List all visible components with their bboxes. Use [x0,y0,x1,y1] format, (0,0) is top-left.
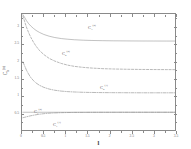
x-tick-minor-bottom [76,131,77,133]
y-tick-right [174,62,177,63]
y-tick-right [174,27,177,28]
y-tick-right [174,44,177,45]
y-tick-minor-right [175,53,177,54]
y-tick-minor-left [21,18,23,19]
annot-c1-2-sup: (2) [39,107,42,111]
x-axis-title: l [21,139,176,146]
y-tick-left [21,114,24,115]
annot-c3-2-sub: 3 [91,27,92,31]
x-tick-minor-top [32,15,33,17]
annot-c2-1: C2(1) [100,84,108,91]
y-tick-right [174,79,177,80]
x-tick-minor-top [99,15,100,17]
x-tick-top [132,14,133,17]
annot-c1-2-sub: 1 [37,111,38,115]
y-tick-label: 1.5 [15,77,20,81]
curve-3 [23,62,175,93]
annot-c2-2: C2(2) [62,50,70,57]
curve-4 [23,112,175,117]
annot-c1-1-sup: (1) [58,120,61,124]
figure-container: 00.511.522.533.5 0.511.522.53 l Ck(n) C3… [0,0,191,149]
x-tick-minor-bottom [99,131,100,133]
x-tick-minor-bottom [143,131,144,133]
x-tick-minor-top [54,15,55,17]
y-axis-title-base: C [2,71,8,75]
annot-c2-2-sub: 2 [65,53,66,57]
y-tick-minor-left [21,70,23,71]
curve-2 [23,16,175,70]
x-tick-top [87,14,88,17]
annot-c3-2: C3(2) [88,24,96,31]
y-tick-left [21,79,24,80]
x-tick-minor-top [165,15,166,17]
y-tick-minor-right [175,88,177,89]
y-tick-right [174,96,177,97]
curves-svg [22,14,175,130]
plot-area [21,13,176,131]
x-tick-minor-bottom [32,131,33,133]
y-tick-minor-right [175,122,177,123]
x-tick-minor-bottom [121,131,122,133]
y-tick-left [21,44,24,45]
y-axis-ticks-right [173,13,177,131]
y-tick-left [21,62,24,63]
y-tick-minor-right [175,18,177,19]
y-tick-label: 0.5 [15,112,20,116]
y-tick-minor-right [175,70,177,71]
annot-c3-2-sup: (2) [93,23,96,27]
y-tick-label: 1 [17,94,19,98]
x-tick-top [43,14,44,17]
y-tick-minor-left [21,105,23,106]
y-tick-left [21,96,24,97]
y-axis-title: Ck(n) [2,55,11,85]
annot-c1-2: C1(2) [34,108,42,115]
x-tick-top [65,14,66,17]
y-axis-ticks-left [21,13,25,131]
y-tick-minor-left [21,122,23,123]
x-tick-top [154,14,155,17]
y-tick-label: 3 [17,25,19,29]
x-tick-minor-top [143,15,144,17]
annot-c2-2-sup: (2) [67,49,70,53]
y-tick-right [174,114,177,115]
y-tick-minor-left [21,53,23,54]
y-tick-label: 2 [17,60,19,64]
x-tick-minor-bottom [54,131,55,133]
annot-c2-1-sup: (1) [105,83,108,87]
y-axis-title-sup: (n) [2,66,6,70]
y-axis-title-sub: k [6,70,10,72]
x-axis-ticks-top [21,13,176,17]
curve-1 [23,15,175,41]
y-tick-left [21,27,24,28]
x-tick-top [110,14,111,17]
y-tick-minor-left [21,36,23,37]
x-tick-minor-top [76,15,77,17]
y-tick-label: 2.5 [15,42,20,46]
y-tick-minor-right [175,36,177,37]
y-tick-minor-left [21,88,23,89]
annot-c1-1: C1(1) [53,121,61,128]
x-tick-minor-bottom [165,131,166,133]
annot-c2-1-sub: 2 [103,87,104,91]
annot-c1-1-sub: 1 [56,124,57,128]
x-tick-minor-top [121,15,122,17]
y-tick-minor-right [175,105,177,106]
